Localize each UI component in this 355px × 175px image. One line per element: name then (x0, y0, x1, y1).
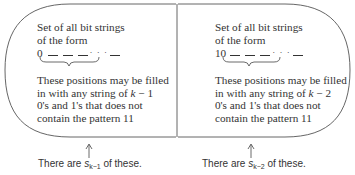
left-form-pattern: 0 · · · (37, 46, 125, 59)
left-desc-line1: These positions may be filled (37, 74, 169, 87)
bit-string-partition-diagram: Set of all bit strings of the form 0 · ·… (0, 0, 355, 175)
left-prefix: 0 (37, 47, 43, 60)
left-description: These positions may be filled in with an… (37, 74, 169, 124)
right-caption: There are sk−2 of these. (202, 158, 306, 169)
left-desc-line3: 0's and 1's that does not (37, 99, 169, 112)
left-panel-title: Set of all bit strings of the form 0 · ·… (37, 21, 125, 59)
right-title-line2: of the form (215, 34, 303, 47)
blank-position (293, 55, 303, 56)
right-desc-line3: 0's and 1's that does not (215, 99, 347, 112)
left-caption: There are sk−1 of these. (38, 158, 142, 169)
ellipsis: · · · (272, 48, 291, 56)
right-description: These positions may be filled in with an… (215, 74, 347, 124)
right-title-line1: Set of all bit strings (215, 21, 303, 34)
right-panel-title: Set of all bit strings of the form 10 · … (215, 21, 303, 59)
left-desc-line2: in with any string of k − 1 (37, 87, 169, 100)
blank-position (110, 55, 120, 56)
left-desc-line4: contain the pattern 11 (37, 112, 169, 125)
blank-position (63, 55, 73, 56)
ellipsis: · · · (90, 48, 109, 56)
right-desc-line1: These positions may be filled (215, 74, 347, 87)
left-title-line2: of the form (37, 34, 125, 47)
blank-position (78, 55, 88, 56)
blank-position (230, 55, 240, 56)
left-title-line1: Set of all bit strings (37, 21, 125, 34)
blank-position (260, 55, 270, 56)
blank-position (48, 55, 58, 56)
right-form-pattern: 10 · · · (215, 46, 303, 59)
right-desc-line2: in with any string of k − 2 (215, 87, 347, 100)
right-prefix: 10 (215, 47, 226, 60)
blank-position (245, 55, 255, 56)
right-desc-line4: contain the pattern 11 (215, 112, 347, 125)
